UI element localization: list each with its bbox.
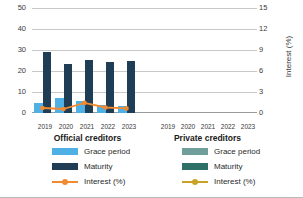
y-tick-right-6: 6: [259, 67, 281, 75]
x-tick-official-2019: 2019: [34, 123, 56, 130]
interest-point-2023: [124, 106, 129, 111]
y-tick-right-15: 15: [259, 4, 281, 12]
x-tick-private-2021: 2021: [197, 123, 219, 130]
legend-item-official-maturity: Maturity: [52, 159, 130, 174]
legend-label-grace-private: Grace period: [214, 147, 260, 156]
x-tick-private-2019: 2019: [157, 123, 179, 130]
legend-swatch-maturity-official: [52, 163, 78, 170]
legend-label-interest-official: Interest (%): [84, 177, 125, 186]
panel-official-creditors: 2019 2020 2021 2022 2023: [32, 8, 142, 113]
y-tick-left-10: 10: [4, 88, 26, 96]
plot-area: 2019 2020 2021 2022 2023 2019 2020 2021 …: [32, 8, 257, 113]
y-axis-title-right: Interest (%): [284, 36, 293, 77]
caption-official-creditors: Official creditors: [40, 133, 135, 143]
y-tick-left-0: 0: [4, 109, 26, 117]
legend-private: Grace period Maturity Interest (%): [182, 144, 260, 189]
x-tick-private-2020: 2020: [177, 123, 199, 130]
legend-swatch-maturity-private: [182, 163, 208, 170]
legend-item-official-grace: Grace period: [52, 144, 130, 159]
legend-official: Grace period Maturity Interest (%): [52, 144, 130, 189]
interest-line-official: [32, 8, 142, 113]
x-tick-private-2023: 2023: [237, 123, 259, 130]
y-tick-right-0: 0: [259, 109, 281, 117]
legend-label-maturity-official: Maturity: [84, 162, 112, 171]
interest-point-2019: [40, 106, 45, 111]
interest-point-2022: [103, 105, 108, 110]
y-tick-right-12: 12: [259, 25, 281, 33]
legend-swatch-grace-official: [52, 148, 78, 155]
y-tick-left-40: 40: [4, 25, 26, 33]
y-tick-right-3: 3: [259, 88, 281, 96]
legend-label-grace-official: Grace period: [84, 147, 130, 156]
bottom-divider: [0, 197, 303, 198]
legend-item-private-grace: Grace period: [182, 144, 260, 159]
caption-private-creditors: Private creditors: [160, 133, 255, 143]
legend-swatch-grace-private: [182, 148, 208, 155]
y-tick-left-20: 20: [4, 67, 26, 75]
y-tick-right-9: 9: [259, 46, 281, 54]
legend-swatch-interest-official: [52, 177, 78, 186]
x-tick-private-2022: 2022: [217, 123, 239, 130]
y-tick-left-30: 30: [4, 46, 26, 54]
x-tick-official-2023: 2023: [118, 123, 140, 130]
legend-label-interest-private: Interest (%): [214, 177, 255, 186]
x-tick-official-2020: 2020: [55, 123, 77, 130]
legend-item-private-interest: Interest (%): [182, 174, 260, 189]
y-tick-left-50: 50: [4, 4, 26, 12]
interest-point-2021: [82, 101, 87, 106]
legend-swatch-interest-private: [182, 177, 208, 186]
chart-container: Years Interest (%) 50 40 30 20 10 0 15 1…: [0, 0, 303, 198]
interest-point-2020: [61, 107, 66, 112]
legend-item-official-interest: Interest (%): [52, 174, 130, 189]
panel-private-creditors: 2019 2020 2021 2022 2023: [157, 8, 257, 113]
x-tick-official-2022: 2022: [97, 123, 119, 130]
x-tick-official-2021: 2021: [76, 123, 98, 130]
legend-item-private-maturity: Maturity: [182, 159, 260, 174]
legend-label-maturity-private: Maturity: [214, 162, 242, 171]
